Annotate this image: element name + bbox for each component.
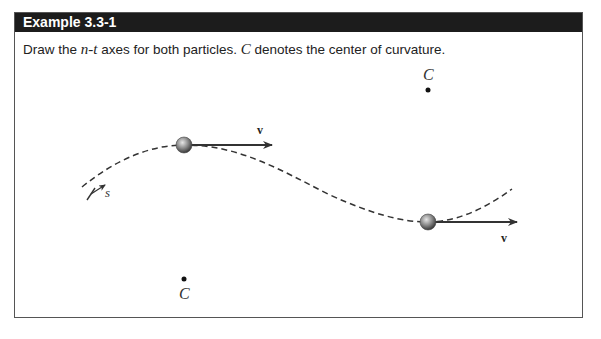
velocity-label-2: v <box>501 231 507 245</box>
particle-1 <box>176 137 192 153</box>
center-of-curvature-top <box>426 88 431 93</box>
velocity-label-1: v <box>257 123 263 137</box>
particle-path-figure: s v v C C <box>0 0 601 339</box>
trajectory-curve <box>82 145 512 222</box>
center-label-top: C <box>423 66 434 83</box>
s-label: s <box>105 185 110 200</box>
center-of-curvature-bottom <box>182 277 187 282</box>
s-coordinate-marker: s <box>87 185 110 200</box>
particle-2 <box>420 214 436 230</box>
center-label-bottom: C <box>179 285 190 302</box>
